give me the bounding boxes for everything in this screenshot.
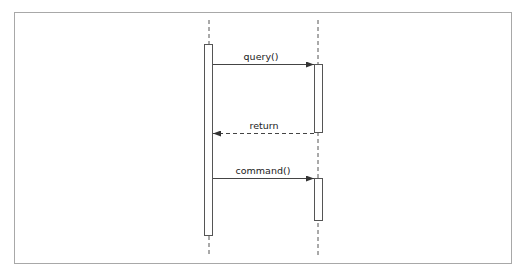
activation-callee-1	[315, 65, 323, 133]
sequence-diagram: query() return command()	[0, 0, 528, 275]
message-query: query()	[213, 51, 314, 65]
message-label-command: command()	[236, 165, 291, 176]
activation-caller	[205, 45, 213, 236]
message-return: return	[213, 120, 314, 134]
lifeline-caller	[205, 20, 213, 256]
lifeline-callee	[315, 20, 323, 256]
message-label-return: return	[249, 120, 278, 131]
message-label-query: query()	[244, 51, 279, 62]
message-command: command()	[213, 165, 314, 179]
activation-callee-2	[315, 179, 323, 221]
